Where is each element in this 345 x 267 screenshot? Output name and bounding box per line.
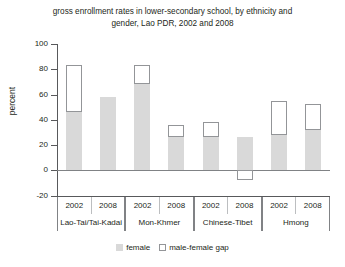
category-year-2002: 2002 bbox=[195, 197, 228, 214]
y-axis-ticklabel-80: 80 bbox=[18, 65, 48, 73]
category-ethnicity-label: Chinese-Tibet bbox=[195, 214, 261, 231]
bar-segment-female bbox=[305, 130, 321, 170]
legend-swatch-female-icon bbox=[116, 244, 123, 251]
category-ethnicity-label: Mon-Khmer bbox=[126, 214, 192, 231]
bar-segment-male-female-gap bbox=[66, 65, 82, 112]
category-year-2008: 2008 bbox=[159, 197, 193, 214]
category-ethnicity-label: Hmong bbox=[263, 214, 329, 231]
category-group-years: 2002 2008 bbox=[263, 197, 329, 214]
legend-swatch-gap-icon bbox=[159, 244, 166, 251]
bar-segment-female bbox=[168, 137, 184, 170]
category-year-2008: 2008 bbox=[91, 197, 125, 214]
category-group-mon-khmer: 2002 2008 Mon-Khmer bbox=[125, 197, 193, 231]
legend-item-male-female-gap: male-female gap bbox=[159, 243, 229, 252]
category-group-years: 2002 2008 bbox=[126, 197, 192, 214]
bar-segment-male-female-gap bbox=[168, 125, 184, 138]
bar-segment-female bbox=[66, 112, 82, 170]
y-axis-ticklabel-0: 0 bbox=[18, 166, 48, 174]
category-group-lao-tai: 2002 2008 Lao-Tai/Tai-Kadai bbox=[57, 197, 125, 231]
category-year-2008: 2008 bbox=[295, 197, 329, 214]
category-group-hmong: 2002 2008 Hmong bbox=[262, 197, 330, 231]
category-group-chinese-tibet: 2002 2008 Chinese-Tibet bbox=[194, 197, 262, 231]
category-label-table: 2002 2008 Lao-Tai/Tai-Kadai 2002 2008 Mo… bbox=[57, 197, 330, 231]
category-year-2002: 2002 bbox=[58, 197, 91, 214]
bar-segment-male-female-gap bbox=[305, 104, 321, 129]
category-year-2008: 2008 bbox=[227, 197, 261, 214]
y-axis-ticklabel-60: 60 bbox=[18, 91, 48, 99]
bar-segment-male-female-gap bbox=[271, 101, 287, 135]
legend-label-female: female bbox=[126, 243, 150, 252]
y-axis-ticklabel-20: 20 bbox=[18, 141, 48, 149]
category-group-years: 2002 2008 bbox=[58, 197, 124, 214]
bar-segment-male-female-gap bbox=[203, 122, 219, 137]
bar-segment-male-female-gap bbox=[237, 170, 253, 180]
y-axis-ticklabel-100: 100 bbox=[18, 40, 48, 48]
bar-segment-male-female-gap bbox=[134, 65, 150, 84]
category-group-years: 2002 2008 bbox=[195, 197, 261, 214]
bar-segment-female bbox=[134, 84, 150, 170]
bar-segment-female bbox=[203, 137, 219, 170]
category-year-2002: 2002 bbox=[263, 197, 296, 214]
legend-item-female: female bbox=[116, 243, 150, 252]
chart-figure: gross enrollment rates in lower-secondar… bbox=[0, 0, 345, 267]
legend-label-male-female-gap: male-female gap bbox=[169, 243, 229, 252]
category-year-2002: 2002 bbox=[126, 197, 159, 214]
y-axis-ticklabel-neg20: -20 bbox=[18, 192, 48, 200]
bar-segment-female bbox=[271, 135, 287, 170]
category-ethnicity-label: Lao-Tai/Tai-Kadai bbox=[58, 214, 124, 231]
y-axis-ticklabel-40: 40 bbox=[18, 116, 48, 124]
bar-segment-female bbox=[237, 137, 253, 170]
y-axis-label: percent bbox=[7, 71, 17, 131]
chart-legend: female male-female gap bbox=[0, 243, 345, 252]
bar-segment-female bbox=[100, 97, 116, 170]
